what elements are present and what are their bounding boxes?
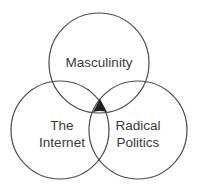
internet-label-line2: Internet — [39, 135, 85, 150]
internet-label-line1: The — [50, 118, 73, 133]
venn-diagram: Masculinity The Internet Radical Politic… — [0, 0, 201, 195]
radical-politics-label-line1: Radical — [115, 118, 160, 133]
radical-politics-label-line2: Politics — [117, 135, 160, 150]
masculinity-label: Masculinity — [66, 55, 133, 70]
